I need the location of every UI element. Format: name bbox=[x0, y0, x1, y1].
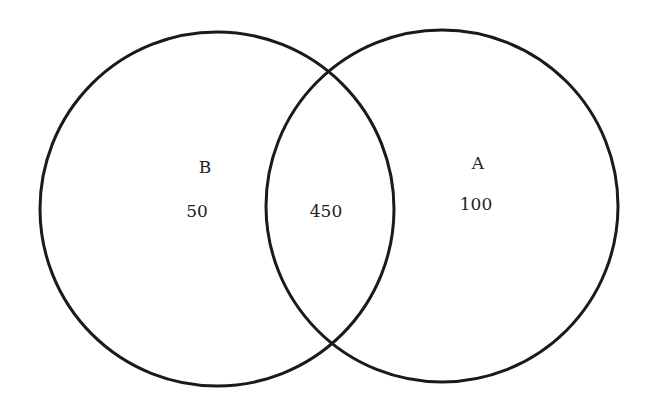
venn-diagram: B 50 450 A 100 bbox=[0, 0, 650, 408]
set-b-only-value: 50 bbox=[186, 201, 208, 221]
intersection-value: 450 bbox=[310, 201, 342, 221]
set-b-label: B bbox=[199, 157, 212, 177]
set-a-only-value: 100 bbox=[460, 194, 492, 214]
set-a-label: A bbox=[471, 153, 485, 173]
